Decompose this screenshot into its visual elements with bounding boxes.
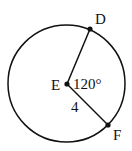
angle-label: 120° <box>73 76 102 92</box>
center-point-E <box>64 81 69 86</box>
circle-diagram: D E 120° 4 F <box>0 0 132 151</box>
point-F <box>105 122 110 127</box>
label-D: D <box>95 11 106 27</box>
point-D <box>87 26 92 31</box>
label-E: E <box>51 77 60 93</box>
label-F: F <box>113 127 121 143</box>
radius-label: 4 <box>71 99 79 115</box>
